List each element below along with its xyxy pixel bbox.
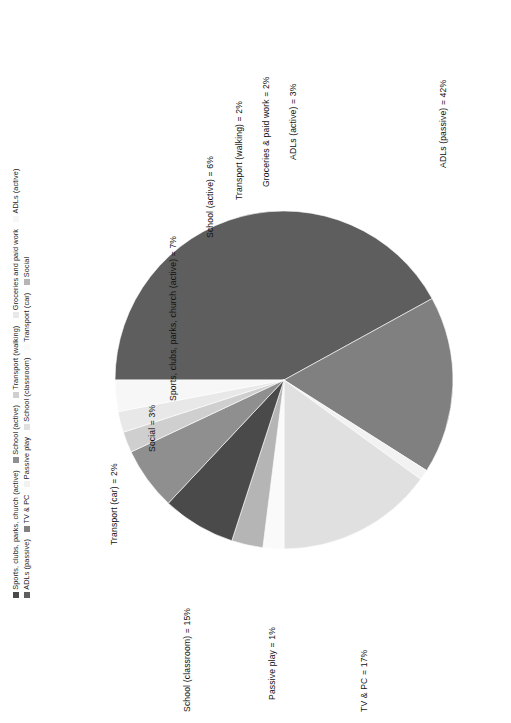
legend-swatch-icon (13, 216, 19, 222)
legend-item-passive-play[interactable]: Passive play (22, 437, 31, 487)
legend-item-groceries-paid-work[interactable]: Groceries and paid work (11, 229, 20, 319)
legend-item-label: Transport (walking) (11, 326, 20, 390)
slice-label-passive-play: Passive play = 1% (267, 627, 277, 700)
legend-item-social[interactable]: Social (22, 257, 31, 286)
legend-swatch-icon (24, 481, 30, 487)
slice-label-transport-walking: Transport (walking) = 2% (234, 101, 244, 200)
legend-item-label: Groceries and paid work (11, 229, 20, 310)
legend-item-tv-pc[interactable]: TV & PC (22, 495, 31, 532)
legend-swatch-icon (24, 344, 30, 350)
legend-item-label: Sports, clubs, parks, church (active) (11, 470, 20, 590)
legend-swatch-icon (24, 279, 30, 285)
legend-swatch-icon (24, 592, 30, 598)
legend-item-transport-car[interactable]: Transport (car) (22, 293, 31, 351)
legend-item-label: School (classroom) (22, 357, 31, 421)
legend-item-adls-passive[interactable]: ADLs (passive) (22, 539, 31, 598)
legend-item-label: School (active) (11, 405, 20, 455)
legend-swatch-icon (24, 424, 30, 430)
legend-item-label: Social (22, 257, 31, 277)
legend-item-label: Transport (car) (22, 293, 31, 342)
pie-chart-page: Sports, clubs, parks, church (active) Sc… (0, 0, 511, 723)
slice-label-social: Social = 3% (147, 405, 157, 452)
legend-swatch-icon (13, 392, 19, 398)
legend-swatch-icon (13, 457, 19, 463)
legend-item-label: Passive play (22, 437, 31, 479)
legend-item-transport-walking[interactable]: Transport (walking) (11, 326, 20, 398)
legend-item-sports-active[interactable]: Sports, clubs, parks, church (active) (11, 470, 20, 598)
pie-slices (115, 211, 453, 549)
slice-label-groceries: Groceries & paid work = 2% (261, 76, 271, 187)
legend-item-adls-active[interactable]: ADLs (active) (11, 168, 20, 221)
legend-row-1: Sports, clubs, parks, church (active) Sc… (11, 163, 20, 598)
legend-swatch-icon (13, 312, 19, 318)
legend-swatch-icon (13, 592, 19, 598)
legend-item-label: TV & PC (22, 495, 31, 524)
slice-label-tv-pc: TV & PC = 17% (359, 650, 369, 712)
legend-item-label: ADLs (passive) (22, 539, 31, 590)
slice-label-adls-active: ADLs (active) = 3% (288, 84, 298, 161)
slice-label-sports: Sports, clubs, parks, church (active) = … (168, 236, 178, 401)
legend-row-2: ADLs (passive) TV & PC Passive play Scho… (22, 252, 31, 598)
slice-label-transport-car: Transport (car) = 2% (109, 463, 119, 545)
legend-item-school-active[interactable]: School (active) (11, 405, 20, 463)
slice-label-adls-passive: ADLs (passive) = 42% (438, 80, 448, 168)
legend-item-label: ADLs (active) (11, 168, 20, 213)
legend-item-school-classroom[interactable]: School (classroom) (22, 357, 31, 429)
slice-label-school-classroom: School (classroom) = 15% (182, 608, 192, 712)
slice-label-school-active: School (active) = 6% (205, 156, 215, 238)
legend-swatch-icon (24, 526, 30, 532)
chart-legend: Sports, clubs, parks, church (active) Sc… (0, 0, 58, 723)
pie-plot-area: ADLs (passive) = 42% TV & PC = 17% Passi… (58, 0, 511, 723)
